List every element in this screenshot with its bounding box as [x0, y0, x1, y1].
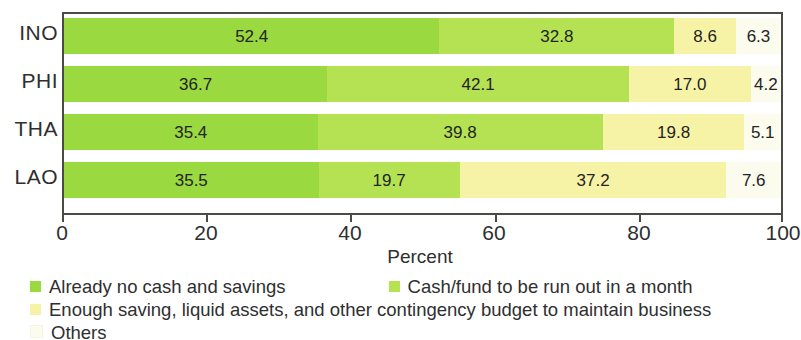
x-tick-label-40: 40: [338, 222, 361, 243]
legend-item-enough-saving: Enough saving, liquid assets, and other …: [30, 299, 711, 320]
bar-segment: 52.4: [64, 18, 439, 54]
x-tick-label-0: 0: [56, 222, 68, 243]
x-tick-label-60: 60: [482, 222, 505, 243]
legend-swatch-icon: [30, 325, 43, 338]
bar-segment: 19.8: [603, 114, 745, 150]
category-label-lao: LAO: [2, 166, 58, 187]
legend-swatch-icon: [30, 304, 41, 315]
category-label-phi: PHI: [2, 70, 58, 91]
legend-item-others: Others: [30, 322, 107, 340]
x-tick-label-80: 80: [627, 222, 650, 243]
legend-swatch-icon: [389, 281, 400, 292]
bar-value-label: 37.2: [577, 172, 610, 189]
x-axis: [62, 213, 783, 223]
bar-value-label: 35.5: [175, 172, 208, 189]
legend-line: Others: [30, 322, 790, 340]
bar-value-label: 5.1: [751, 124, 775, 141]
chart-legend: Already no cash and savings Cash/fund to…: [30, 276, 790, 340]
legend-line: Already no cash and savings Cash/fund to…: [30, 276, 790, 299]
bar-value-label: 19.7: [373, 172, 406, 189]
category-label-ino: INO: [2, 22, 58, 43]
bar-segment: 5.1: [744, 114, 781, 150]
category-axis: INO PHI THA LAO: [0, 0, 58, 215]
bar-segment: 42.1: [327, 66, 629, 102]
bar-value-label: 17.0: [673, 76, 706, 93]
legend-item-already-no-cash: Already no cash and savings: [30, 276, 286, 297]
bar-segment: 35.5: [64, 162, 319, 198]
bar-segment: 6.3: [736, 18, 781, 54]
legend-label: Already no cash and savings: [49, 276, 286, 297]
bar-value-label: 8.6: [693, 28, 717, 45]
x-tick-label-100: 100: [765, 222, 800, 243]
bar-value-label: 4.2: [754, 76, 778, 93]
bar-value-label: 36.7: [179, 76, 212, 93]
bar-segment: 8.6: [674, 18, 736, 54]
bar-value-label: 7.6: [742, 172, 766, 189]
legend-swatch-icon: [30, 281, 41, 292]
bar-segment: 17.0: [629, 66, 751, 102]
bar-value-label: 19.8: [657, 124, 690, 141]
category-label-tha: THA: [2, 118, 58, 139]
bar-segment: 19.7: [319, 162, 460, 198]
bar-value-label: 42.1: [462, 76, 495, 93]
bar-segment: 35.4: [64, 114, 318, 150]
legend-label: Cash/fund to be run out in a month: [408, 276, 693, 297]
bar-segment: 7.6: [726, 162, 780, 198]
x-axis-title: Percent: [0, 246, 800, 268]
legend-label: Others: [51, 322, 107, 340]
x-tick-label-20: 20: [194, 222, 217, 243]
bar-segment: 37.2: [460, 162, 727, 198]
bar-segment: 32.8: [439, 18, 674, 54]
bar-segment: 4.2: [751, 66, 781, 102]
bar-value-label: 35.4: [174, 124, 207, 141]
plot-area: 52.4 32.8 8.6 6.3 36.7 42.1 17.0 4.: [62, 12, 783, 215]
bar-row: 35.5 19.7 37.2 7.6: [64, 162, 781, 198]
bar-value-label: 32.8: [540, 28, 573, 45]
bar-value-label: 52.4: [235, 28, 268, 45]
legend-line: Enough saving, liquid assets, and other …: [30, 299, 790, 322]
bar-row: 36.7 42.1 17.0 4.2: [64, 66, 781, 102]
bar-row: 35.4 39.8 19.8 5.1: [64, 114, 781, 150]
legend-label: Enough saving, liquid assets, and other …: [49, 299, 711, 320]
x-axis-title-text: Percent: [387, 246, 452, 267]
legend-item-run-out-month: Cash/fund to be run out in a month: [389, 276, 693, 297]
bar-segment: 36.7: [64, 66, 327, 102]
bar-segment: 39.8: [318, 114, 603, 150]
bar-value-label: 39.8: [444, 124, 477, 141]
bar-value-label: 6.3: [747, 28, 771, 45]
bar-row: 52.4 32.8 8.6 6.3: [64, 18, 781, 54]
